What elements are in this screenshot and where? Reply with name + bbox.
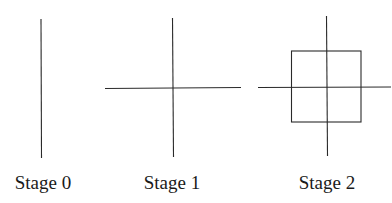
stage-2-square xyxy=(292,51,362,122)
stage-1-figure xyxy=(105,18,241,157)
stage-1-horizontal-line xyxy=(105,88,241,89)
stage-2-figure xyxy=(258,16,391,156)
stage-0-vertical-line xyxy=(41,19,42,158)
stage-0-label: Stage 0 xyxy=(0,171,93,195)
stage-2-horizontal-line xyxy=(258,87,391,88)
stage-1-label: Stage 1 xyxy=(122,171,222,195)
stage-2-label: Stage 2 xyxy=(277,171,377,195)
stage-2-vertical-line xyxy=(327,16,328,156)
stage-0-figure xyxy=(41,19,42,158)
